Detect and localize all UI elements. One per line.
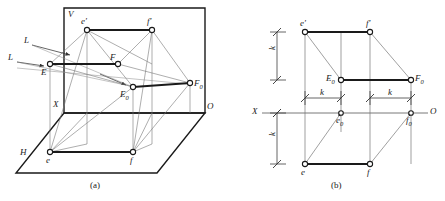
figure-b-dim-k-upper-left: k — [268, 46, 277, 50]
figure-b-point-e-prime: e′ — [300, 19, 306, 28]
figure-a-v-plane-label: V — [68, 10, 74, 19]
figure-b-point-E0: E0 — [326, 74, 335, 85]
figure-a-light-ray-label-upper: L — [24, 36, 29, 45]
figure-a-point-E: E — [41, 68, 47, 77]
figure-a-point-F: F — [110, 53, 116, 62]
figure-b-point-f0: f0 — [406, 116, 412, 127]
figure-a-point-f-prime: f′ — [147, 17, 151, 26]
figure-b-point-F0: F0 — [415, 74, 424, 85]
figure-b-point-f-prime: f′ — [366, 19, 370, 28]
dimension-lines-b — [270, 28, 415, 168]
figure-a-point-e-prime: e′ — [81, 17, 87, 26]
figure-b-o-origin-label: O — [430, 107, 437, 116]
figure-b-dim-k-horizontal-1: k — [320, 88, 324, 97]
figure-a-point-F0: F0 — [194, 79, 203, 90]
figure-b-point-e0: e0 — [336, 116, 343, 127]
figure-b-x-axis-label: X — [252, 107, 258, 116]
figure-a-h-plane-label: H — [20, 148, 27, 157]
figure-a-point-E0: E0 — [120, 90, 129, 101]
figure-b-canvas — [0, 0, 445, 201]
figure-a-caption: (a) — [90, 180, 100, 190]
figure-a-o-origin-label: O — [207, 102, 214, 111]
figure-b-dim-k-lower-left: k — [268, 132, 277, 136]
figure-a-point-e: e — [46, 156, 50, 165]
figure-b-point-f: f — [367, 168, 370, 177]
figure-a-point-f: f — [130, 156, 133, 165]
figure-b-caption: (b) — [331, 180, 342, 190]
figure-b-point-e: e — [301, 168, 305, 177]
diagram-root: V H X O L L e′ f′ E F E0 F0 e f (a) X O … — [0, 0, 445, 201]
figure-b-dim-k-horizontal-2: k — [388, 88, 392, 97]
figure-a-x-axis-label: X — [53, 100, 59, 109]
figure-a-light-ray-label-lower: L — [8, 53, 13, 62]
